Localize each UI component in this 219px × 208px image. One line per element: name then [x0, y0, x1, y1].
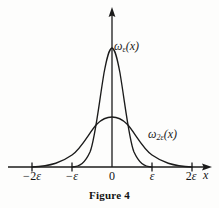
- curve-label-omega-eps: ωε(x): [114, 40, 139, 54]
- tick-label-epsilon: ε: [139, 170, 165, 182]
- x-axis-label: x: [203, 169, 208, 181]
- epsilon-glyph: ε: [192, 169, 197, 183]
- omega-argument: (x): [126, 39, 139, 53]
- mollifier-plot: [0, 0, 219, 185]
- curve-label-omega-2eps: ω2ε(x): [148, 128, 177, 142]
- omega-subscript: 2ε: [156, 133, 163, 142]
- tick-label-minus-epsilon: −ε: [57, 170, 87, 182]
- minus-sign: −: [66, 169, 73, 183]
- epsilon-glyph: ε: [36, 169, 41, 183]
- plot-area: ωε(x) ω2ε(x) −2ε −ε 0 ε 2ε x: [0, 0, 219, 185]
- y-axis-group: [109, 7, 116, 167]
- epsilon-glyph: ε: [73, 169, 78, 183]
- figure-caption: Figure 4: [0, 189, 219, 201]
- tick-label-minus-two-epsilon: −2ε: [14, 170, 50, 182]
- figure-4-container: ωε(x) ω2ε(x) −2ε −ε 0 ε 2ε x Figure 4: [0, 0, 219, 208]
- omega-argument: (x): [164, 127, 177, 141]
- tick-label-zero: 0: [97, 170, 127, 182]
- minus-sign: −: [23, 169, 30, 183]
- tick-number: 0: [109, 169, 115, 183]
- tick-label-two-epsilon: 2ε: [176, 170, 206, 182]
- epsilon-glyph: ε: [150, 169, 155, 183]
